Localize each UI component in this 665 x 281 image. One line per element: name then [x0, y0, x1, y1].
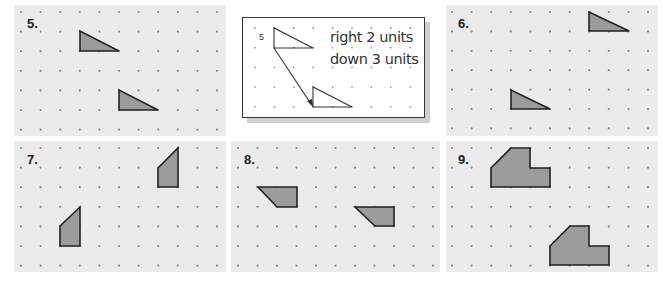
p8-shape-b: [355, 207, 394, 226]
p8-shape-a: [258, 187, 297, 207]
problem-number-5: 5.: [27, 16, 38, 31]
p7-shape-b: [60, 207, 80, 246]
p5-original-triangle: [80, 31, 119, 51]
p9-shape-b: [550, 226, 609, 265]
problem-number-8: 8.: [244, 152, 255, 167]
p6-image-triangle: [511, 90, 550, 109]
problem-number-7: 7.: [27, 152, 38, 167]
problem-number-6: 6.: [458, 16, 469, 31]
p9-shape-a: [491, 148, 550, 187]
translation-arrow: [274, 48, 311, 104]
problem-number-9: 9.: [458, 152, 469, 167]
p6-original-triangle: [589, 12, 629, 31]
example-instruction-line-2: down 3 units: [330, 51, 418, 67]
example-instruction-line-1: right 2 units: [330, 29, 413, 45]
p7-shape-a: [158, 148, 178, 187]
example-label: 5: [259, 32, 264, 42]
p5-image-triangle: [119, 90, 158, 110]
example-original-triangle: [274, 28, 313, 48]
example-image-triangle: [313, 87, 352, 107]
